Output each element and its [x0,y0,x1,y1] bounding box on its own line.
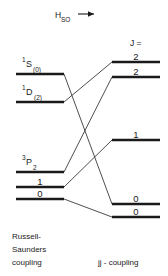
term-letter-1D2: D [26,87,33,97]
term-j-1S0: (0) [33,66,41,74]
level-number-jj1: 1 [133,129,138,140]
term-symbol-1S0: 1 S (0) [22,56,41,74]
level-number-jj2a: 2 [133,51,138,62]
left-caption-line-3: coupling [12,258,42,267]
spin-orbit-perturbation-label: H SO [55,10,94,23]
term-letter-3P2: P [26,157,32,167]
hso-subscript: SO [61,16,70,23]
term-letter-1S0: S [26,59,32,69]
energy-level-diagram: H SO J = 1 S (0) 1 D (2) 3 P 2 1 0 [0,0,168,276]
level-number-3P0: 0 [37,188,42,199]
connector-1S0-to-jj0a [64,74,112,204]
connector-3P2-to-jj2b [64,77,112,172]
term-symbol-1D2: 1 D (2) [22,84,42,102]
arrow-head-icon [88,11,94,16]
term-symbol-3P2: 3 P 2 [22,154,37,171]
term-j-3P2: 2 [33,164,37,171]
right-caption: jj - coupling [97,258,138,267]
level-number-jj0b: 0 [133,206,138,217]
j-header-label: J = [130,38,142,48]
connector-1D2-to-jj2a [64,62,112,102]
level-number-3P1: 1 [37,176,42,187]
left-caption: Russell- Saunders coupling [12,232,46,267]
left-caption-line-1: Russell- [12,232,41,241]
level-number-jj0a: 0 [133,193,138,204]
term-j-1D2: (2) [34,94,42,102]
connector-3P0-to-jj0b [64,199,112,217]
left-caption-line-2: Saunders [12,245,46,254]
connector-3P1-to-jj1 [64,140,112,187]
level-number-jj2b: 2 [133,66,138,77]
correlation-connectors [64,62,112,217]
